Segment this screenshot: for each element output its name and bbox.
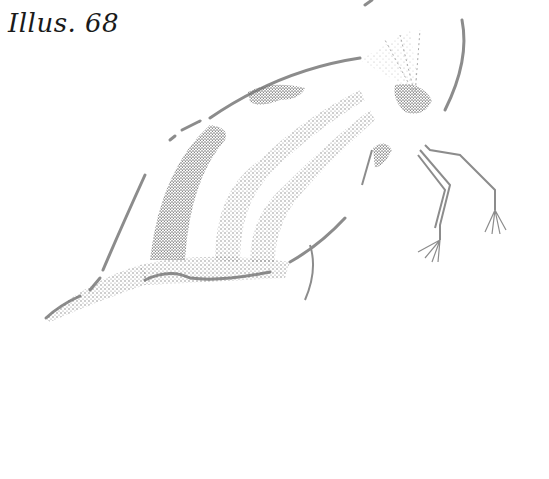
feet	[418, 210, 506, 262]
legs	[305, 145, 495, 300]
insect-illustration	[0, 0, 549, 479]
stippled-regions	[45, 30, 432, 322]
